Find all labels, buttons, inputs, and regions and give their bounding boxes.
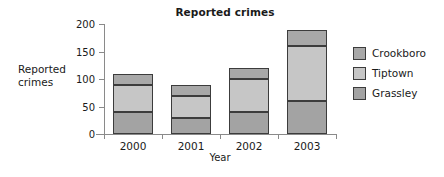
y-axis-tick-label: 150 [76, 46, 95, 57]
y-axis-tick: 100 [99, 79, 104, 80]
bar-stack[interactable] [287, 30, 327, 135]
legend-item-label: Crookboro [372, 47, 426, 59]
legend-item-label: Grassley [372, 87, 417, 99]
y-axis-line [104, 24, 105, 134]
bar-stack[interactable] [171, 85, 211, 135]
bar-segment[interactable] [229, 112, 269, 134]
y-axis-title-line-2: crimes [18, 76, 80, 89]
legend-color-swatch [353, 47, 366, 60]
bar-segment[interactable] [287, 46, 327, 101]
plot-area: 050100150200 2000200120022003 [104, 24, 336, 134]
x-axis-category-label: 2000 [120, 140, 147, 152]
bar-segment[interactable] [229, 79, 269, 112]
chart-legend: CrookboroTiptownGrassley [353, 43, 426, 103]
bar-segment[interactable] [113, 112, 153, 134]
y-axis-tick-label: 0 [89, 129, 95, 140]
chart-container: Reported crimes Reported crimes 05010015… [0, 0, 444, 177]
y-axis-tick: 200 [99, 24, 104, 25]
x-axis-tick [104, 134, 105, 139]
chart-title: Reported crimes [100, 6, 350, 18]
bar-segment[interactable] [287, 30, 327, 47]
legend-item[interactable]: Crookboro [353, 43, 426, 63]
x-axis-category-label: 2003 [294, 140, 321, 152]
bar-segment[interactable] [287, 101, 327, 134]
y-axis-tick-label: 100 [76, 74, 95, 85]
x-axis-category-label: 2002 [236, 140, 263, 152]
x-axis-line [96, 134, 336, 135]
bar-segment[interactable] [171, 118, 211, 135]
bar-segment[interactable] [171, 96, 211, 118]
x-axis-tick [278, 134, 279, 139]
x-axis-tick [162, 134, 163, 139]
y-axis-title: Reported crimes [18, 63, 80, 88]
bar-stack[interactable] [229, 68, 269, 134]
legend-item[interactable]: Tiptown [353, 63, 426, 83]
x-axis-tick [220, 134, 221, 139]
legend-item-label: Tiptown [372, 67, 413, 79]
bar-segment[interactable] [113, 85, 153, 113]
legend-color-swatch [353, 67, 366, 80]
legend-item[interactable]: Grassley [353, 83, 426, 103]
bar-stack[interactable] [113, 74, 153, 135]
y-axis-title-line-1: Reported [18, 63, 66, 75]
y-axis-tick-label: 50 [82, 101, 95, 112]
y-axis-tick-label: 200 [76, 19, 95, 30]
bar-segment[interactable] [171, 85, 211, 96]
bar-segment[interactable] [229, 68, 269, 79]
bar-segment[interactable] [113, 74, 153, 85]
x-axis-category-label: 2001 [178, 140, 205, 152]
legend-color-swatch [353, 87, 366, 100]
x-axis-tick [336, 134, 337, 139]
x-axis-title: Year [104, 152, 336, 163]
y-axis-tick: 50 [99, 107, 104, 108]
y-axis-tick: 150 [99, 52, 104, 53]
